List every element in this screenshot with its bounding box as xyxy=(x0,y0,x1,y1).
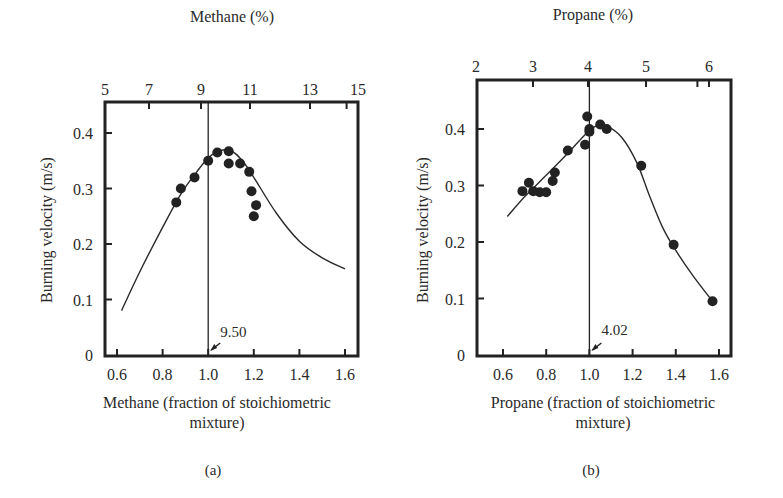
x-tick-label: 1.0 xyxy=(579,366,599,383)
plot-frame xyxy=(105,102,358,356)
data-point xyxy=(517,186,527,196)
data-point xyxy=(584,124,594,134)
top-tick-label: 7 xyxy=(145,81,153,98)
top-tick-label: 2 xyxy=(472,58,480,75)
plot-area: 4.02 xyxy=(477,80,731,356)
y-tick-label: 0 xyxy=(85,347,93,364)
top-tick-label: 5 xyxy=(642,58,650,75)
x-tick-label: 0.6 xyxy=(107,366,127,383)
y-tick-label: 0.1 xyxy=(445,291,465,308)
fitted-curve xyxy=(507,125,712,301)
y-tick-label: 0.4 xyxy=(445,121,465,138)
data-point xyxy=(235,159,245,169)
data-point xyxy=(550,168,560,178)
top-tick-label: 5 xyxy=(101,81,109,98)
data-point xyxy=(224,159,234,169)
data-point xyxy=(203,156,213,166)
x-tick-label: 1.6 xyxy=(335,366,355,383)
y-tick-label: 0.3 xyxy=(73,181,93,198)
data-point xyxy=(176,184,186,194)
data-point xyxy=(190,172,200,182)
annotation-label: 9.50 xyxy=(220,324,246,340)
y-tick-label: 0.3 xyxy=(445,178,465,195)
x-tick-label: 0.8 xyxy=(536,366,556,383)
x-tick-label: 1.0 xyxy=(198,366,218,383)
x-axis-label-line1: Methane (fraction of stoichiometric xyxy=(103,394,331,412)
fitted-curve xyxy=(122,150,345,311)
top-axis-label: Methane (%) xyxy=(190,8,274,26)
data-point xyxy=(708,296,718,306)
annotation-label: 4.02 xyxy=(601,322,627,338)
data-point xyxy=(541,187,551,197)
y-tick-label: 0.4 xyxy=(73,125,93,142)
top-axis-ticks: 579111315 xyxy=(101,81,366,109)
top-tick-label: 15 xyxy=(350,81,366,98)
x-tick-label: 1.4 xyxy=(289,366,309,383)
panel-caption: (b) xyxy=(582,462,600,479)
x-axis-label-line2: mixture) xyxy=(189,414,244,432)
data-point xyxy=(224,146,234,156)
x-tick-label: 1.2 xyxy=(244,366,264,383)
panel-caption: (a) xyxy=(205,462,222,479)
data-point xyxy=(249,211,259,221)
y-tick-label: 0.2 xyxy=(445,234,465,251)
data-point xyxy=(636,161,646,171)
top-tick-label: 9 xyxy=(197,81,205,98)
y-tick-label: 0.1 xyxy=(73,292,93,309)
x-tick-label: 1.4 xyxy=(666,366,686,383)
data-point xyxy=(548,176,558,186)
x-axis-label-line1: Propane (fraction of stoichiometric xyxy=(491,394,715,412)
top-tick-label: 6 xyxy=(705,58,713,75)
data-point xyxy=(580,140,590,150)
x-axis-label-line2: mixture) xyxy=(575,414,630,432)
data-point xyxy=(251,200,261,210)
plot-area: 9.50 xyxy=(105,102,358,356)
y-tick-label: 0 xyxy=(457,347,465,364)
top-axis-ticks: 23456 xyxy=(472,58,713,87)
data-point xyxy=(524,178,534,188)
data-point xyxy=(247,186,257,196)
figure-canvas: Methane (%) 579111315 9.50 Burning veloc… xyxy=(0,0,783,498)
data-point xyxy=(563,145,573,155)
top-tick-label: 11 xyxy=(242,81,257,98)
x-axis-ticks: 0.60.81.01.21.41.6 xyxy=(107,349,355,383)
chart-panel-b: Propane (%) 23456 4.02 Burning velocity … xyxy=(414,6,731,479)
y-tick-label: 0.2 xyxy=(73,236,93,253)
data-point xyxy=(602,124,612,134)
data-point xyxy=(244,167,254,177)
x-tick-label: 0.8 xyxy=(153,366,173,383)
y-axis-label: Burning velocity (m/s) xyxy=(414,157,432,303)
x-axis-ticks: 0.60.81.01.21.41.6 xyxy=(493,349,729,383)
top-tick-label: 3 xyxy=(529,58,537,75)
top-axis-label: Propane (%) xyxy=(553,6,633,24)
top-tick-label: 13 xyxy=(302,81,318,98)
top-tick-label: 4 xyxy=(584,58,592,75)
data-point xyxy=(582,112,592,122)
y-axis-label: Burning velocity (m/s) xyxy=(38,157,56,303)
arrow-head-icon xyxy=(210,344,217,351)
x-tick-label: 1.2 xyxy=(623,366,643,383)
x-tick-label: 0.6 xyxy=(493,366,513,383)
data-point xyxy=(171,197,181,207)
arrow-head-icon xyxy=(591,344,598,351)
data-point xyxy=(669,240,679,250)
x-tick-label: 1.6 xyxy=(709,366,729,383)
chart-panel-a: Methane (%) 579111315 9.50 Burning veloc… xyxy=(38,8,366,479)
data-point xyxy=(212,147,222,157)
